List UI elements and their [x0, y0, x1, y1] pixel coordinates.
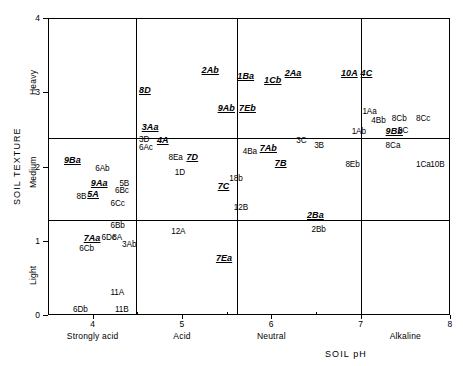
data-point-label: 6Db — [73, 306, 88, 314]
data-point-label: 9Ab — [218, 104, 235, 113]
data-point-label: 7Aa — [84, 234, 101, 243]
y-axis-category-label: Medium — [28, 157, 38, 188]
x-axis-tick-label: 4 — [78, 319, 108, 329]
data-point-label: 2C — [398, 127, 408, 135]
data-point-label: 4Bb — [371, 117, 385, 125]
y-axis-title: SOIL TEXTURE — [12, 127, 22, 205]
data-point-label: 7Ea — [216, 254, 232, 263]
data-point-label: 6Cc — [110, 200, 124, 208]
data-point-label: 1D — [175, 169, 185, 177]
data-point-label: 1Cb — [264, 76, 281, 85]
data-point-label: 11B — [115, 306, 129, 314]
data-point-label: 2Bb — [311, 226, 325, 234]
data-point-label: 18b — [229, 175, 242, 183]
y-axis-tick-label: 4 — [26, 13, 40, 23]
data-point-label: 12A — [171, 228, 185, 236]
x-axis-tick-label: 7 — [346, 319, 376, 329]
gridline-horizontal — [49, 138, 449, 139]
data-point-label: 3Ab — [122, 241, 136, 249]
gridline-vertical — [136, 19, 137, 314]
data-point-label: 9Ba — [64, 156, 81, 165]
data-point-label: 2Ab — [202, 66, 219, 75]
data-point-label: 7Eb — [239, 104, 256, 113]
x-axis-tick-label: 8 — [435, 319, 463, 329]
data-point-label: 6Bc — [115, 187, 129, 195]
soil-ph-texture-scatter-chart: SOIL TEXTURE SOIL pH 45678Strongly acidA… — [0, 0, 463, 366]
data-point-label: 6Ac — [139, 144, 153, 152]
data-point-label: 3Aa — [142, 123, 159, 132]
data-point-label: 8B — [77, 193, 87, 201]
data-point-label: 7B — [275, 159, 287, 168]
data-point-label: 8Cb — [392, 115, 407, 123]
data-point-label: 6Ab — [95, 165, 109, 173]
x-axis-minor-tick — [227, 312, 228, 315]
data-point-label: 6Bb — [110, 222, 124, 230]
x-axis-minor-tick — [316, 312, 317, 315]
data-point-label: 11A — [110, 289, 124, 297]
data-point-label: 7Ab — [260, 144, 277, 153]
y-axis-tick — [43, 18, 48, 19]
data-point-label: 8Ca — [386, 142, 401, 150]
data-point-label: 12B — [234, 204, 248, 212]
x-axis-category-label: Strongly acid — [48, 331, 138, 341]
y-axis-tick — [43, 92, 48, 93]
x-axis-minor-tick — [137, 312, 138, 315]
data-point-label: 8Ea — [169, 154, 183, 162]
data-point-label: 8Cc — [416, 115, 430, 123]
y-axis-category-label: Light — [28, 265, 38, 284]
gridline-horizontal — [49, 220, 449, 221]
y-axis-tick-label: 1 — [26, 236, 40, 246]
data-point-label: 1Ab — [352, 128, 366, 136]
y-axis-tick — [43, 167, 48, 168]
data-point-label: 7C — [218, 182, 230, 191]
data-point-label: 7D — [186, 153, 198, 162]
data-point-label: 2Ba — [307, 211, 324, 220]
data-point-label: 8D — [139, 86, 151, 95]
gridline-vertical — [237, 19, 238, 314]
y-axis-category-label: Heavy — [28, 70, 38, 95]
x-axis-category-label: Neutral — [226, 331, 316, 341]
x-axis-title: SOIL pH — [325, 349, 367, 359]
data-point-label: 1Ba — [237, 72, 254, 81]
data-point-label: 4Ba — [243, 148, 257, 156]
data-point-label: 9Aa — [91, 179, 108, 188]
data-point-label: 10B — [430, 161, 444, 169]
y-axis-tick-label: 0 — [26, 310, 40, 320]
data-point-label: 4C — [361, 69, 373, 78]
y-axis-tick — [43, 241, 48, 242]
data-point-label: 10A — [341, 69, 358, 78]
data-point-label: 5A — [87, 190, 99, 199]
data-point-label: 1Ca — [416, 161, 431, 169]
data-point-label: 2Aa — [285, 69, 302, 78]
data-point-label: 6Cb — [79, 245, 94, 253]
data-point-label: 8Eb — [345, 161, 359, 169]
x-axis-tick-label: 5 — [167, 319, 197, 329]
x-axis-tick-label: 6 — [256, 319, 286, 329]
y-axis-tick — [43, 315, 48, 316]
data-point-label: 4A — [157, 136, 169, 145]
data-point-label: 3B — [314, 142, 324, 150]
x-axis-category-label: Alkaline — [360, 331, 450, 341]
data-point-label: 1Aa — [362, 108, 376, 116]
x-axis-category-label: Acid — [137, 331, 227, 341]
data-point-label: 3C — [296, 137, 306, 145]
data-point-label: 8A — [112, 234, 122, 242]
gridline-vertical — [361, 19, 362, 314]
